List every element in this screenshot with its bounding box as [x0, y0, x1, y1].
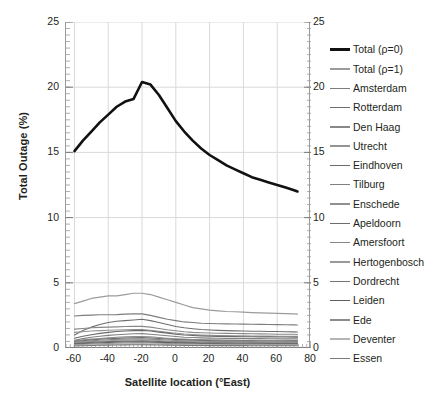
legend-label: Den Haag [353, 122, 400, 133]
legend-swatch-line-icon [330, 145, 350, 146]
chart-legend: Total (ρ=0)Total (ρ=1)AmsterdamRotterdam… [330, 40, 448, 368]
y-tick-label-left: 25 [29, 15, 59, 27]
x-tick-label: 40 [225, 352, 259, 364]
legend-swatch-line-icon [330, 203, 350, 204]
x-tick-label: 20 [192, 352, 226, 364]
legend-label: Amsterdam [353, 83, 407, 94]
legend-item[interactable]: Ede [330, 310, 448, 329]
legend-item[interactable]: Apeldoorn [330, 214, 448, 233]
legend-item[interactable]: Utrecht [330, 136, 448, 155]
y-tick-label-left: 0 [29, 341, 59, 353]
legend-label: Rotterdam [353, 102, 402, 113]
legend-item[interactable]: Essen [330, 349, 448, 368]
legend-item[interactable]: Enschede [330, 194, 448, 213]
legend-item[interactable]: Eindhoven [330, 156, 448, 175]
legend-swatch-line-icon [330, 126, 350, 127]
y-axis-title: Total Outage (%) [17, 96, 29, 216]
legend-swatch-line-icon [330, 48, 350, 51]
legend-swatch-line-icon [330, 242, 350, 243]
legend-label: Eindhoven [353, 160, 403, 171]
legend-label: Dordrecht [353, 276, 399, 287]
legend-item[interactable]: Total (ρ=1) [330, 59, 448, 78]
x-tick-label: -40 [90, 352, 124, 364]
legend-swatch-line-icon [330, 184, 350, 185]
legend-swatch-line-icon [330, 88, 350, 89]
legend-label: Amersfoort [353, 237, 404, 248]
legend-item[interactable]: Tilburg [330, 175, 448, 194]
legend-label: Total (ρ=1) [353, 64, 403, 75]
legend-item[interactable]: Hertogenbosch [330, 252, 448, 271]
legend-label: Utrecht [353, 141, 387, 152]
legend-swatch-line-icon [330, 107, 350, 108]
legend-label: Deventer [353, 334, 396, 345]
legend-label: Apeldoorn [353, 218, 401, 229]
legend-label: Ede [353, 315, 372, 326]
legend-swatch-line-icon [330, 338, 350, 339]
legend-swatch-line-icon [330, 165, 350, 166]
legend-label: Hertogenbosch [353, 257, 424, 268]
y-tick-label-left: 15 [29, 145, 59, 157]
legend-swatch-line-icon [330, 261, 350, 262]
y-tick-label-right: 25 [313, 15, 343, 27]
legend-label: Enschede [353, 199, 400, 210]
legend-swatch-line-icon [330, 68, 350, 69]
legend-label: Tilburg [353, 179, 385, 190]
plot-area [65, 22, 310, 348]
legend-swatch-line-icon [330, 281, 350, 282]
x-tick-label: 80 [293, 352, 327, 364]
legend-item[interactable]: Amersfoort [330, 233, 448, 252]
x-tick-label: 60 [259, 352, 293, 364]
legend-label: Leiden [353, 295, 385, 306]
legend-item[interactable]: Rotterdam [330, 98, 448, 117]
legend-label: Total (ρ=0) [353, 44, 403, 55]
x-tick-label: -20 [124, 352, 158, 364]
legend-label: Essen [353, 353, 382, 364]
legend-swatch-line-icon [330, 319, 350, 320]
x-tick-label: 0 [158, 352, 192, 364]
y-tick-label-left: 20 [29, 80, 59, 92]
chart-canvas [66, 22, 311, 348]
x-tick-label: -60 [56, 352, 90, 364]
legend-swatch-line-icon [330, 358, 350, 359]
chart-figure: Total Outage (%) Satellite location (°Ea… [0, 0, 448, 410]
legend-item[interactable]: Total (ρ=0) [330, 40, 448, 59]
legend-swatch-line-icon [330, 223, 350, 224]
x-axis-title: Satellite location (°East) [60, 376, 315, 388]
y-tick-label-left: 5 [29, 276, 59, 288]
legend-swatch-line-icon [330, 300, 350, 301]
legend-item[interactable]: Dordrecht [330, 272, 448, 291]
legend-item[interactable]: Deventer [330, 329, 448, 348]
y-tick-label-left: 10 [29, 211, 59, 223]
legend-item[interactable]: Den Haag [330, 117, 448, 136]
legend-item[interactable]: Leiden [330, 291, 448, 310]
legend-item[interactable]: Amsterdam [330, 79, 448, 98]
